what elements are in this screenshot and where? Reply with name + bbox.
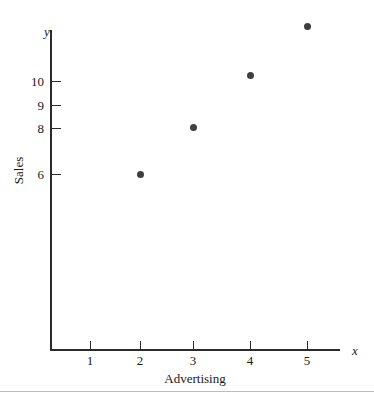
scatter-plot-figure: y x 6 8 9 10 1 2 3 4 5 [0,0,374,406]
x-axis-title: Advertising [50,371,340,386]
x-ticklabel-3: 3 [183,353,203,368]
x-tick-2 [140,341,141,350]
plot-area: y x 6 8 9 10 1 2 3 4 5 [0,0,374,406]
x-ticklabel-5: 5 [297,353,317,368]
x-ticklabel-1: 1 [80,353,100,368]
x-tick-3 [193,341,194,350]
y-tick-8 [52,128,61,129]
data-point [247,72,254,79]
y-tick-9 [52,105,61,106]
x-tick-5 [307,341,308,350]
y-axis-letter: y [44,25,50,38]
y-ticklabel-10: 10 [22,75,44,88]
y-tick-10 [52,81,61,82]
x-axis-letter: x [352,344,358,357]
y-axis-title: Sales [11,141,26,201]
y-ticklabel-8: 8 [22,122,44,135]
data-point [137,171,144,178]
x-ticklabel-4: 4 [240,353,260,368]
x-ticklabel-2: 2 [130,353,150,368]
data-point [190,124,197,131]
bottom-divider [0,391,374,392]
x-axis-line [50,349,340,351]
x-tick-1 [90,341,91,350]
x-tick-4 [250,341,251,350]
y-tick-6 [52,174,61,175]
y-ticklabel-9: 9 [22,99,44,112]
y-axis-line [50,30,52,351]
data-point [304,23,311,30]
